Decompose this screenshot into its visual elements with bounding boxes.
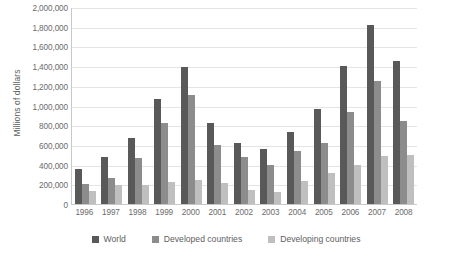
- bar-group-1996: [75, 8, 96, 204]
- y-tick-label: 400,000: [24, 161, 68, 170]
- x-tick-label: 2006: [341, 208, 359, 217]
- bar: [142, 185, 149, 204]
- x-tick-label: 2000: [182, 208, 200, 217]
- bar: [234, 143, 241, 204]
- chart-legend: WorldDeveloped countriesDeveloping count…: [0, 234, 452, 244]
- bar-group-1999: [154, 8, 175, 204]
- x-tick-label: 2002: [235, 208, 253, 217]
- bar: [301, 181, 308, 204]
- bar: [195, 180, 202, 204]
- x-tick-label: 2003: [262, 208, 280, 217]
- bar: [381, 156, 388, 204]
- plot-area: [71, 8, 417, 205]
- bar-group-2004: [287, 8, 308, 204]
- bar-group-1998: [128, 8, 149, 204]
- bar: [221, 183, 228, 204]
- bar-group-1997: [101, 8, 122, 204]
- legend-label: Developing countries: [280, 234, 360, 244]
- y-tick-label: 0: [24, 201, 68, 210]
- bar-group-2003: [260, 8, 281, 204]
- y-tick-label: 600,000: [24, 141, 68, 150]
- legend-item-2[interactable]: Developing countries: [268, 234, 360, 244]
- bar-chart: Millions of dollars 2,000,0001,800,0001,…: [0, 0, 452, 257]
- bar: [400, 121, 407, 204]
- bar: [340, 66, 347, 204]
- bars-layer: [72, 8, 417, 204]
- y-tick-label: 200,000: [24, 181, 68, 190]
- y-tick-label: 1,800,000: [24, 23, 68, 32]
- bar-group-2005: [314, 8, 335, 204]
- bar: [393, 61, 400, 204]
- x-tick-label: 2005: [315, 208, 333, 217]
- legend-label: World: [104, 234, 126, 244]
- y-tick-label: 800,000: [24, 122, 68, 131]
- x-tick-label: 2004: [288, 208, 306, 217]
- bar: [168, 182, 175, 204]
- bar: [241, 157, 248, 204]
- bar: [154, 99, 161, 204]
- bar: [89, 191, 96, 204]
- bar: [287, 132, 294, 204]
- y-tick-label: 1,200,000: [24, 82, 68, 91]
- bar: [115, 185, 122, 204]
- legend-swatch-icon: [152, 236, 159, 243]
- x-tick-label: 1998: [129, 208, 147, 217]
- bar: [82, 184, 89, 204]
- x-tick-label: 2001: [208, 208, 226, 217]
- bar: [374, 81, 381, 204]
- y-tick-label: 2,000,000: [24, 4, 68, 13]
- bar: [367, 25, 374, 204]
- bar: [328, 173, 335, 204]
- bar: [161, 123, 168, 204]
- x-axis-tick-labels: 1996199719981999200020012002200320042005…: [71, 208, 417, 217]
- y-tick-label: 1,000,000: [24, 102, 68, 111]
- bar: [314, 109, 321, 204]
- bar-group-2002: [234, 8, 255, 204]
- bar-group-2006: [340, 8, 361, 204]
- bar: [75, 169, 82, 204]
- bar: [354, 165, 361, 204]
- y-tick-label: 1,600,000: [24, 43, 68, 52]
- y-tick-label: 1,400,000: [24, 63, 68, 72]
- bar: [294, 151, 301, 204]
- legend-item-1[interactable]: Developed countries: [152, 234, 242, 244]
- bar: [267, 165, 274, 204]
- x-tick-label: 2008: [395, 208, 413, 217]
- x-tick-label: 1999: [155, 208, 173, 217]
- bar: [207, 123, 214, 204]
- bar-group-2000: [181, 8, 202, 204]
- x-tick-label: 1997: [102, 208, 120, 217]
- x-tick-label: 1996: [75, 208, 93, 217]
- bar: [274, 192, 281, 204]
- bar: [108, 178, 115, 204]
- bar: [260, 149, 267, 204]
- x-tick-label: 2007: [368, 208, 386, 217]
- bar: [407, 155, 414, 204]
- bar-group-2008: [393, 8, 414, 204]
- bar: [214, 145, 221, 204]
- bar: [321, 143, 328, 204]
- legend-swatch-icon: [268, 236, 275, 243]
- legend-item-0[interactable]: World: [92, 234, 126, 244]
- bar: [128, 138, 135, 204]
- legend-label: Developed countries: [164, 234, 242, 244]
- bar: [101, 157, 108, 204]
- bar-group-2001: [207, 8, 228, 204]
- bar-group-2007: [367, 8, 388, 204]
- y-axis-title-text: Millions of dollars: [12, 69, 22, 136]
- bar: [181, 67, 188, 204]
- bar: [188, 95, 195, 204]
- y-axis-tick-labels: 2,000,0001,800,0001,600,0001,400,0001,20…: [24, 8, 68, 205]
- legend-swatch-icon: [92, 236, 99, 243]
- bar: [135, 158, 142, 204]
- bar: [347, 112, 354, 204]
- bar: [248, 190, 255, 204]
